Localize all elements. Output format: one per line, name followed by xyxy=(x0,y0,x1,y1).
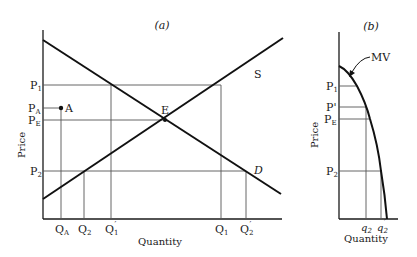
b-price-tick-p2: P2 xyxy=(326,165,338,179)
panel-b-y-label: Price xyxy=(309,122,320,148)
price-tick-p1: P1 xyxy=(30,79,42,93)
equilibrium-marker xyxy=(163,118,167,122)
point-a-marker xyxy=(59,106,63,110)
b-price-tick-p1: P1 xyxy=(326,80,338,94)
panel-b-title: (b) xyxy=(363,20,379,33)
panel-a: (a) S D E A P1 PA PE P2 QA Q2 Q1′ xyxy=(16,19,283,247)
mv-label: MV xyxy=(371,51,391,64)
qty-tick-q1: Q1 xyxy=(215,223,229,237)
panel-a-x-label: Quantity xyxy=(138,236,182,247)
demand-label: D xyxy=(253,164,263,177)
panel-b: (b) MV P1 P' PE P2 q2 q2′ Price Quantity xyxy=(309,20,398,244)
panel-b-x-label: Quantity xyxy=(344,233,388,244)
price-tick-pe: PE xyxy=(28,114,41,128)
equilibrium-label: E xyxy=(161,104,169,117)
qty-tick-q1-prime: Q1′ xyxy=(105,219,119,237)
qty-tick-q2-prime: Q2′ xyxy=(240,219,254,237)
supply-demand-diagram: (a) S D E A P1 PA PE P2 QA Q2 Q1′ xyxy=(0,0,417,257)
point-a-label: A xyxy=(64,102,74,115)
qty-tick-qa: QA xyxy=(55,223,70,237)
panel-a-y-label: Price xyxy=(16,132,27,158)
mv-curve xyxy=(339,66,387,219)
qty-tick-q2: Q2 xyxy=(78,223,92,237)
price-tick-p2: P2 xyxy=(30,165,42,179)
panel-a-title: (a) xyxy=(154,19,169,32)
supply-label: S xyxy=(254,68,262,81)
mv-pointer-line xyxy=(352,57,370,72)
b-price-tick-pe: PE xyxy=(324,113,337,127)
